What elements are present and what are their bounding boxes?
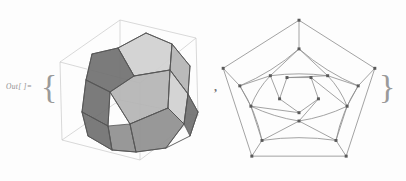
graph-edge (270, 49, 299, 76)
graph-edges (223, 20, 375, 156)
graph-edge (346, 68, 375, 156)
graph-vertex (298, 111, 301, 114)
graph-edge (240, 86, 262, 141)
graph-vertex (317, 97, 320, 100)
graph-vertex (222, 67, 225, 70)
graph-vertex (269, 74, 272, 77)
graph-vertex (285, 76, 288, 79)
out-label: Out[ ]= (6, 82, 32, 91)
graph-vertex (373, 67, 376, 70)
graph-vertex (238, 84, 241, 87)
list-close-brace: } (379, 70, 395, 104)
graph-edge (223, 68, 252, 156)
graph-vertex (261, 139, 264, 142)
graph-edge (336, 106, 347, 140)
graph-edge (299, 106, 347, 121)
graph-edge (270, 76, 279, 99)
graph-edge (336, 140, 346, 156)
bbox-edge (60, 62, 62, 140)
graph-vertex (346, 105, 349, 108)
graph-edge (223, 20, 299, 68)
dodecahedron-faces (82, 33, 198, 152)
graph-edge (299, 99, 318, 113)
notebook-output-cell: Out[ ]= { , } (0, 0, 406, 181)
graph-edge (251, 106, 262, 140)
graph-edge (299, 49, 358, 86)
graph-edge (311, 78, 347, 107)
graph-vertex (345, 155, 348, 158)
graph-edge (251, 106, 299, 121)
graph-vertex (298, 120, 301, 123)
graph-edge (270, 74, 327, 76)
graph-edge (251, 76, 270, 107)
dodecahedron-3d-svg (48, 0, 208, 181)
graph-edge (336, 86, 358, 141)
graph-edge (347, 86, 358, 106)
graph-vertex (250, 155, 253, 158)
graph-edge (328, 76, 347, 107)
graph-vertex (335, 139, 338, 142)
bbox-edge (120, 20, 196, 38)
dodecahedron-3d-figure[interactable] (48, 0, 208, 181)
graph-vertex (278, 97, 281, 100)
graph-vertex (310, 76, 313, 79)
graph-vertex (298, 19, 301, 22)
schlegel-diagram-svg (213, 0, 385, 181)
graph-vertex (357, 84, 360, 87)
graph-edge (280, 78, 287, 99)
graph-vertex (326, 74, 329, 77)
graph-edge (240, 49, 299, 86)
graph-edge (240, 86, 251, 106)
bbox-edge (196, 38, 198, 116)
graph-edge (262, 138, 336, 141)
graph-edge (252, 140, 262, 156)
graph-vertex (249, 105, 252, 108)
graph-vertex (298, 47, 301, 50)
graph-edge (299, 20, 375, 68)
graph-edge (299, 49, 328, 76)
schlegel-diagram-figure[interactable] (213, 0, 385, 181)
